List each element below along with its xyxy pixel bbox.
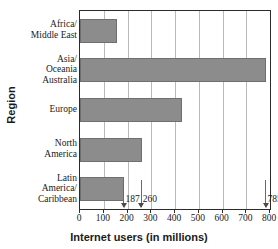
y-axis-tick-label-line: Australia — [20, 75, 77, 86]
y-axis-tick-label-line: America — [20, 149, 77, 160]
gridline — [223, 11, 224, 209]
bar — [80, 98, 182, 122]
y-axis-tick-label: Asia/OceaniaAustralia — [20, 54, 77, 86]
plot-inner — [80, 11, 270, 209]
y-axis-tick-label-line: North — [20, 138, 77, 149]
x-axis-tick-label: 800 — [254, 213, 278, 223]
y-axis-tick-label: Africa/Middle East — [20, 19, 77, 40]
bar — [80, 19, 117, 43]
y-axis-title: Region — [5, 75, 17, 135]
y-axis-tick-label-line: Oceania — [20, 64, 77, 75]
y-axis-tick-label-line: Caribbean — [20, 194, 77, 205]
y-axis-tick-label: NorthAmerica — [20, 138, 77, 159]
y-axis-tick-label-line: Latin — [20, 173, 77, 184]
y-axis-tick-labels: Africa/Middle EastAsia/OceaniaAustraliaE… — [20, 10, 77, 208]
plot-area — [79, 10, 271, 210]
y-axis-tick-label-line: America/ — [20, 183, 77, 194]
annotation-value: 260 — [143, 194, 157, 204]
y-axis-tick-label-line: Europe — [20, 104, 77, 115]
y-axis-tick-label: Europe — [20, 104, 77, 115]
y-axis-tick-label-line: Africa/ — [20, 19, 77, 30]
bar — [80, 58, 266, 82]
gridline — [199, 11, 200, 209]
bar — [80, 177, 124, 201]
x-axis-title: Internet users (in millions) — [0, 231, 278, 243]
gridline — [246, 11, 247, 209]
y-axis-tick-label-line: Middle East — [20, 30, 77, 41]
bar — [80, 138, 142, 162]
y-axis-tick-label-line: Asia/ — [20, 54, 77, 65]
chart-figure: Region Africa/Middle EastAsia/OceaniaAus… — [0, 0, 278, 249]
annotation-value: 785 — [267, 194, 278, 204]
y-axis-tick-label: LatinAmerica/Caribbean — [20, 173, 77, 205]
